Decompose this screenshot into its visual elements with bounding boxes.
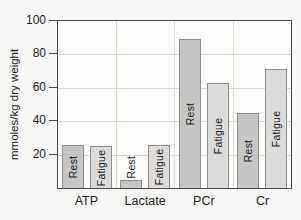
y-tick-mark-80 <box>49 53 57 54</box>
bar-series-label: Fatigue <box>212 118 224 154</box>
bar-series-label: Fatigue <box>270 111 282 147</box>
bar-series-label: Rest <box>242 140 254 162</box>
category-label-cr: Cr <box>233 194 292 208</box>
bar-lactate-rest: Rest <box>120 180 142 188</box>
bar-series-label: Fatigue <box>95 149 107 185</box>
bar-pcr-fatigue: Fatigue <box>207 83 229 188</box>
bar-series-label: Rest <box>184 103 196 125</box>
bar-atp-rest: Rest <box>62 145 84 188</box>
y-tick-label-40: 40 <box>12 114 46 126</box>
y-tick-label-100: 100 <box>12 14 46 26</box>
category-label-lactate: Lactate <box>116 194 175 208</box>
bar-chart: mmoles/kg dry weight RestFatigueRestFati… <box>0 0 301 220</box>
bar-group-lactate: RestFatigue <box>117 21 176 188</box>
y-tick-label-20: 20 <box>12 148 46 160</box>
bar-lactate-fatigue: Fatigue <box>148 145 170 188</box>
bar-pcr-rest: Rest <box>179 39 201 188</box>
bar-groups: RestFatigueRestFatigueRestFatigueRestFat… <box>58 21 291 188</box>
y-tick-label-60: 60 <box>12 81 46 93</box>
y-tick-mark-40 <box>49 120 57 121</box>
category-label-atp: ATP <box>57 194 116 208</box>
plot-area: RestFatigueRestFatigueRestFatigueRestFat… <box>57 20 292 189</box>
bar-atp-fatigue: Fatigue <box>90 146 112 188</box>
y-tick-mark-20 <box>49 154 57 155</box>
bar-series-label: Rest <box>125 156 137 178</box>
bar-group-pcr: RestFatigue <box>175 21 234 188</box>
bar-cr-rest: Rest <box>237 113 259 188</box>
y-tick-label-80: 80 <box>12 47 46 59</box>
bar-group-cr: RestFatigue <box>234 21 292 188</box>
y-tick-mark-100 <box>49 20 57 21</box>
category-label-pcr: PCr <box>175 194 234 208</box>
bar-series-label: Fatigue <box>153 149 165 185</box>
y-tick-mark-60 <box>49 87 57 88</box>
bar-series-label: Rest <box>67 156 79 178</box>
y-axis-title: mmoles/kg dry weight <box>6 20 21 189</box>
bar-group-atp: RestFatigue <box>58 21 117 188</box>
x-axis-category-labels: ATPLactatePCrCr <box>57 194 292 208</box>
bar-cr-fatigue: Fatigue <box>265 69 287 188</box>
